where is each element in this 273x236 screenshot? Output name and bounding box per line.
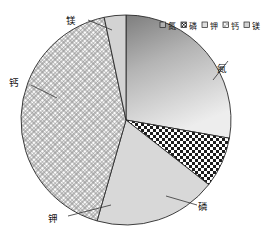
pie-slices-group bbox=[21, 15, 231, 225]
slice-label-3: 钙 bbox=[9, 77, 19, 88]
legend-label-4: 镁 bbox=[252, 21, 260, 31]
slice-label-2: 钾 bbox=[48, 213, 58, 224]
legend-swatch-1 bbox=[181, 22, 187, 28]
legend-label-1: 磷 bbox=[189, 21, 197, 31]
slice-label-1: 磷 bbox=[198, 201, 208, 212]
pie-chart-canvas: 氮磷钾钙镁 氮磷钾钙镁 bbox=[0, 0, 273, 236]
slice-label-4: 镁 bbox=[66, 15, 76, 26]
legend-label-3: 钙 bbox=[231, 21, 239, 31]
legend-swatch-3 bbox=[223, 22, 229, 28]
legend-label-0: 氮 bbox=[168, 21, 176, 31]
slice-label-0: 氮 bbox=[217, 63, 227, 74]
pie-chart-figure: 氮磷钾钙镁 氮磷钾钙镁 bbox=[0, 0, 273, 236]
legend-label-2: 钾 bbox=[210, 22, 218, 31]
legend-swatch-2 bbox=[202, 22, 208, 28]
legend-swatch-0 bbox=[160, 22, 166, 28]
legend-swatch-4 bbox=[244, 22, 250, 28]
